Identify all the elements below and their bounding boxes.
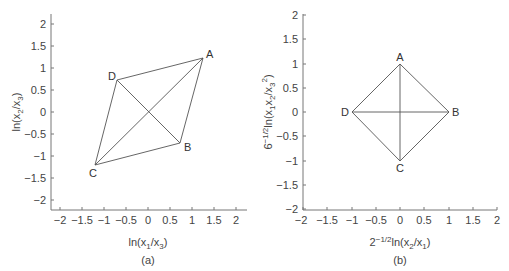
panel-b-x-axis-label: 2−1/2ln(x2/x1) xyxy=(370,235,431,251)
panel-b-y-axis-label: 6−1/2ln(x1x2/x32) xyxy=(260,74,277,149)
panel-a: 2 1.5 1 0.5 0 −0.5 −1 −1.5 −2 −2 −1.5 −1 xyxy=(10,14,247,266)
x-tick-label: 1 xyxy=(189,214,195,226)
x-tick-label: −0.5 xyxy=(365,214,387,226)
edge-b-a xyxy=(180,58,203,143)
y-tick-label: −1.5 xyxy=(276,179,298,191)
y-tick-label: −1 xyxy=(285,155,298,167)
y-tick-label: −0.5 xyxy=(276,130,298,142)
x-tick-label: 0.5 xyxy=(416,214,431,226)
panel-a-x-axis-label: ln(x1/x3) xyxy=(129,236,168,251)
panel-a-caption: (a) xyxy=(141,254,154,266)
panel-b-x-tick-labels: −2 −1.5 −1 −0.5 0 0.5 1 1.5 2 xyxy=(295,214,500,226)
panel-b-y-tick-labels: 2 1.5 1 0.5 0 −0.5 −1 −1.5 −2 xyxy=(276,9,298,215)
x-tick-label: −2 xyxy=(54,214,67,226)
x-tick-label: −1.5 xyxy=(316,214,338,226)
y-tick-label: 1.5 xyxy=(31,40,46,52)
x-tick-label: 0.5 xyxy=(162,214,177,226)
y-tick-label: −0.5 xyxy=(24,128,46,140)
y-tick-label: 2 xyxy=(40,18,46,30)
panel-b-caption: (b) xyxy=(393,254,406,266)
x-tick-label: −1 xyxy=(98,214,111,226)
point-label-a: A xyxy=(396,51,404,63)
edge-a-d xyxy=(117,58,203,80)
x-tick-label: 2 xyxy=(494,214,500,226)
x-tick-label: 1 xyxy=(446,214,452,226)
edge-c-d xyxy=(352,112,400,161)
y-tick-label: 0 xyxy=(40,106,46,118)
y-tick-label: −2 xyxy=(33,194,46,206)
x-tick-label: −1.5 xyxy=(71,214,93,226)
x-tick-label: −0.5 xyxy=(115,214,137,226)
y-tick-label: 0.5 xyxy=(283,82,298,94)
y-tick-label: −1.5 xyxy=(24,172,46,184)
panel-b-polygon xyxy=(352,64,449,161)
point-label-b: B xyxy=(184,141,191,153)
x-tick-label: 1.5 xyxy=(465,214,480,226)
point-label-d: D xyxy=(108,70,116,82)
x-tick-label: 1.5 xyxy=(206,214,221,226)
point-label-b: B xyxy=(452,106,459,118)
y-tick-label: 1 xyxy=(40,62,46,74)
point-label-d: D xyxy=(341,106,349,118)
x-tick-label: −1 xyxy=(346,214,359,226)
panel-b: 2 1.5 1 0.5 0 −0.5 −1 −1.5 −2 −2 −1.5 −1 xyxy=(260,9,500,266)
y-tick-label: −1 xyxy=(33,150,46,162)
edge-b-c xyxy=(400,112,449,161)
x-tick-label: 0 xyxy=(397,214,403,226)
edge-a-b xyxy=(400,64,449,112)
x-tick-label: 2 xyxy=(233,214,239,226)
panel-a-x-tick-labels: −2 −1.5 −1 −0.5 0 0.5 1 1.5 2 xyxy=(54,214,239,226)
point-label-a: A xyxy=(206,48,214,60)
x-tick-label: −2 xyxy=(295,214,308,226)
edge-d-a xyxy=(352,64,400,112)
y-tick-label: 0.5 xyxy=(31,84,46,96)
edge-c-b xyxy=(95,143,180,165)
panel-a-y-tick-labels: 2 1.5 1 0.5 0 −0.5 −1 −1.5 −2 xyxy=(24,18,46,206)
y-tick-label: 0 xyxy=(292,106,298,118)
panel-a-y-axis-label: ln(x2/x3) xyxy=(10,93,25,132)
x-tick-label: 0 xyxy=(145,214,151,226)
y-tick-label: 1.5 xyxy=(283,33,298,45)
edge-d-c xyxy=(95,80,117,165)
y-tick-label: 2 xyxy=(292,9,298,21)
point-label-c: C xyxy=(89,167,97,179)
y-tick-label: 1 xyxy=(292,58,298,70)
figure: 2 1.5 1 0.5 0 −0.5 −1 −1.5 −2 −2 −1.5 −1 xyxy=(0,0,509,271)
point-label-c: C xyxy=(396,162,404,174)
